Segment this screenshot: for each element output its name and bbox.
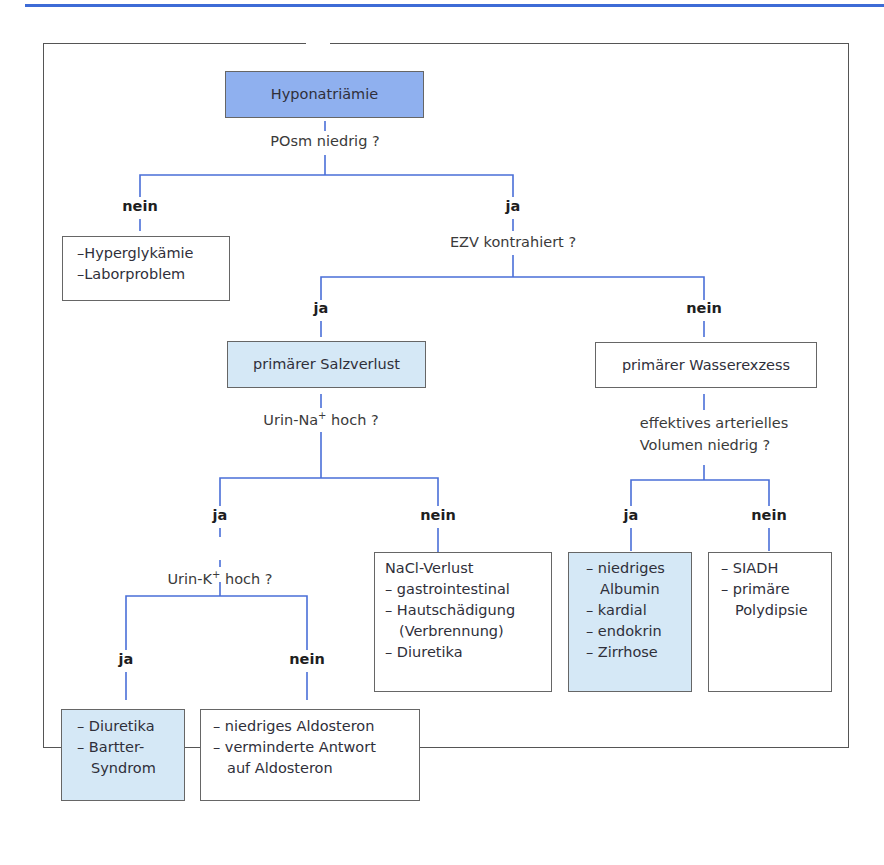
list-item: – niedriges xyxy=(586,558,691,579)
water-excess-label: primärer Wasserexzess xyxy=(622,355,790,376)
q5-line2: Volumen niedrig ? xyxy=(640,434,789,456)
node-hyperglykaemie-laborproblem: –Hyperglykämie –Laborproblem xyxy=(62,236,230,301)
q4-sup: + xyxy=(212,569,220,580)
answer-ja-urin-k: ja xyxy=(119,651,134,667)
answer-ja-ezv: ja xyxy=(314,300,329,316)
node-volumen-niedrig-ursachen: – niedriges Albumin – kardial – endokrin… xyxy=(568,552,692,692)
question-effektives-volumen: effektives arterielles Volumen niedrig ? xyxy=(640,412,789,456)
question-posm: POsm niedrig ? xyxy=(270,133,379,149)
nacl-title: NaCl-Verlust xyxy=(385,558,551,579)
question-urin-k: Urin-K+ hoch ? xyxy=(167,569,272,587)
list-item: – Zirrhose xyxy=(586,642,691,663)
answer-nein-volumen: nein xyxy=(751,507,786,523)
answer-nein-ezv: nein xyxy=(686,300,721,316)
node-aldosteron: – niedriges Aldosteron – verminderte Ant… xyxy=(200,709,420,801)
answer-ja-urin-na: ja xyxy=(213,507,228,523)
question-urin-na: Urin-Na+ hoch ? xyxy=(263,410,378,428)
list-item: Syndrom xyxy=(77,758,184,779)
node-primaerer-salzverlust: primärer Salzverlust xyxy=(227,341,426,388)
list-item: – Bartter- xyxy=(77,737,184,758)
q3-pre: Urin-Na xyxy=(263,412,318,428)
root-label: Hyponatriämie xyxy=(271,84,378,105)
node-siadh-polydipsie: – SIADH – primäre Polydipsie xyxy=(708,552,832,692)
list-item: – Diuretika xyxy=(77,716,184,737)
question-ezv: EZV kontrahiert ? xyxy=(450,234,576,250)
list-item: – endokrin xyxy=(586,621,691,642)
list-item: – niedriges Aldosteron xyxy=(213,716,419,737)
q5-line1: effektives arterielles xyxy=(640,412,789,434)
list-item: –Hyperglykämie xyxy=(77,243,229,264)
list-item: –Laborproblem xyxy=(77,264,229,285)
answer-nein-urin-na: nein xyxy=(420,507,455,523)
list-item: – Hautschädigung xyxy=(385,600,551,621)
list-item: Albumin xyxy=(586,579,691,600)
list-item: (Verbrennung) xyxy=(385,621,551,642)
list-item: – verminderte Antwort xyxy=(213,737,419,758)
q4-post: hoch ? xyxy=(220,571,272,587)
root-node-hyponatriaemie: Hyponatriämie xyxy=(225,71,424,118)
list-item: – primäre xyxy=(721,579,831,600)
list-item: Polydipsie xyxy=(721,600,831,621)
answer-ja-posm: ja xyxy=(506,198,521,214)
node-nacl-verlust: NaCl-Verlust – gastrointestinal – Hautsc… xyxy=(374,552,552,692)
list-item: auf Aldosteron xyxy=(213,758,419,779)
list-item: – SIADH xyxy=(721,558,831,579)
salt-loss-label: primärer Salzverlust xyxy=(253,354,400,375)
answer-ja-volumen: ja xyxy=(624,507,639,523)
q3-sup: + xyxy=(318,410,326,421)
q3-post: hoch ? xyxy=(327,412,379,428)
node-primaerer-wasserexzess: primärer Wasserexzess xyxy=(595,342,817,388)
q4-pre: Urin-K xyxy=(167,571,212,587)
answer-nein-posm: nein xyxy=(122,198,157,214)
list-item: – kardial xyxy=(586,600,691,621)
node-diuretika-bartter: – Diuretika – Bartter- Syndrom xyxy=(61,709,185,801)
answer-nein-urin-k: nein xyxy=(289,651,324,667)
list-item: – Diuretika xyxy=(385,642,551,663)
list-item: – gastrointestinal xyxy=(385,579,551,600)
